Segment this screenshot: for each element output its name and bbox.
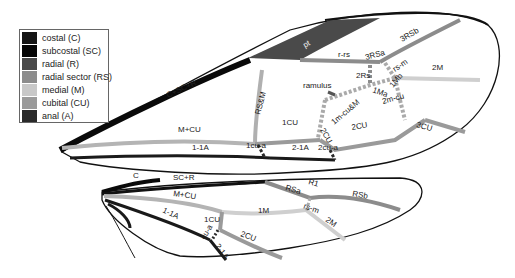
legend-label: subcostal (SC) — [42, 45, 101, 57]
legend-swatch — [22, 58, 37, 70]
legend-item-radial: radial (R) — [20, 58, 108, 70]
label-2-1a: 2-1A — [292, 143, 310, 152]
legend-item-medial: medial (M) — [20, 84, 108, 96]
legend-swatch — [22, 97, 37, 109]
hw-label-c: C — [133, 171, 139, 180]
vein-2m — [395, 78, 480, 80]
label-1cu-a: 1cu-a — [246, 141, 267, 150]
legend-label: radial sector (RS) — [42, 71, 112, 83]
legend-swatch — [22, 71, 37, 83]
legend-swatch — [22, 32, 37, 44]
legend: costal (C) subcostal (SC) radial (R) rad… — [19, 29, 109, 123]
hindwing-1cu-vein — [220, 212, 222, 230]
hw-label-1m: 1M — [258, 206, 269, 215]
legend-item-cubital: cubital (CU) — [20, 97, 108, 109]
legend-item-anal: anal (A) — [20, 110, 108, 122]
label-ramulus: ramulus — [303, 81, 331, 90]
vein-2-1a — [270, 158, 335, 160]
legend-label: radial (R) — [42, 58, 79, 70]
legend-item-subcostal: subcostal (SC) — [20, 45, 108, 57]
legend-item-costal: costal (C) — [20, 32, 108, 44]
hw-label-1cu: 1CU — [204, 215, 220, 224]
label-2cu-a-cross: 2cu-a — [318, 143, 339, 152]
label-2rs: 2Rs — [356, 71, 370, 80]
legend-label: cubital (CU) — [42, 97, 90, 109]
forewing-outline — [62, 12, 499, 174]
label-1cu: 1CU — [282, 118, 298, 127]
legend-swatch — [22, 110, 37, 122]
label-r-rs: r-rs — [338, 50, 350, 59]
hw-label-sc-r: SC+R — [173, 173, 195, 182]
label-2m: 2M — [432, 63, 443, 72]
label-1-1a: 1-1A — [192, 143, 210, 152]
legend-label: costal (C) — [42, 32, 81, 44]
legend-swatch — [22, 84, 37, 96]
legend-swatch — [22, 45, 37, 57]
legend-label: medial (M) — [42, 84, 85, 96]
legend-label: anal (A) — [42, 110, 74, 122]
legend-item-radial-sector: radial sector (RS) — [20, 71, 108, 83]
label-m-plus-cu: M+CU — [178, 125, 201, 134]
